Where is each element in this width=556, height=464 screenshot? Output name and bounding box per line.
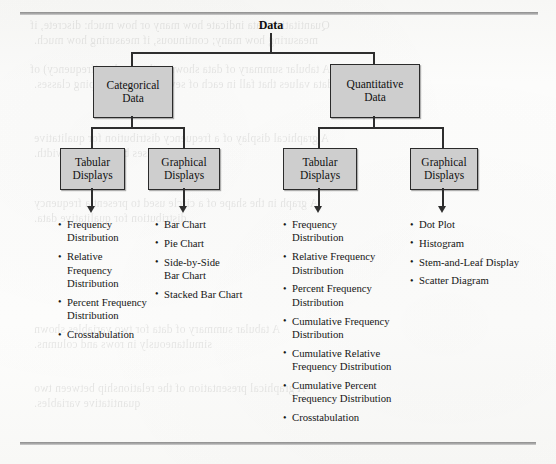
node-quantitative-data: Quantitative Data (330, 64, 420, 118)
bleed-text-line-3: A tabular summary of data showing the nu… (30, 62, 330, 78)
arrow-stem-quant-graphical (442, 188, 444, 208)
list-item: Cumulative Relative Frequency Distributi… (283, 347, 408, 374)
bleed-text-line-7: A graph in the shape of a circle used to… (34, 196, 318, 212)
arrow-stem-quant-tabular (318, 188, 320, 208)
node-categorical-tabular-displays-label: Tabular Displays (72, 156, 112, 183)
bleed-text-line-5: A graphical display of a frequency distr… (34, 131, 329, 147)
list-item: Scatter Diagram (410, 274, 540, 287)
bleed-text-line-2: measuring how many; continuous, if measu… (34, 33, 318, 49)
node-categorical-graphical-displays: Graphical Displays (148, 148, 220, 190)
top-divider-rule (20, 12, 538, 15)
categorical-graphical-list: Bar Chart Pie Chart Side-by-Side Bar Cha… (155, 218, 265, 307)
connector-to-cat-tabular (91, 127, 93, 148)
root-node-data: Data (236, 18, 306, 33)
list-item: Crosstabulation (283, 411, 408, 424)
list-item: Dot Plot (410, 218, 540, 231)
arrow-head-quant-tabular (314, 206, 322, 213)
quantitative-tabular-list: Frequency Distribution Relative Frequenc… (283, 218, 408, 430)
node-categorical-data-label: Categorical Data (106, 79, 159, 106)
connector-to-categorical (131, 52, 133, 66)
quantitative-graphical-list: Dot Plot Histogram Stem-and-Leaf Display… (410, 218, 540, 293)
list-item: Bar Chart (155, 218, 265, 231)
list-item: Percent Frequency Distribution (58, 296, 150, 323)
bleed-text-line-4: data values that fall in each of several… (34, 77, 333, 93)
arrow-head-cat-tabular (87, 206, 95, 213)
list-item: Crosstabulation (58, 328, 150, 341)
list-item: Cumulative Percent Frequency Distributio… (283, 379, 408, 406)
connector-root-stem (270, 33, 272, 53)
connector-quantitative-bar (318, 127, 443, 129)
bleed-text-line-12: quantitative variables. (34, 396, 140, 412)
node-quantitative-tabular-displays: Tabular Displays (283, 148, 357, 190)
figure-page: Quantitative data indicate how many or h… (0, 0, 556, 464)
list-item: Percent Frequency Distribution (283, 282, 408, 309)
arrow-head-cat-graphical (179, 206, 187, 213)
node-quantitative-graphical-displays-label: Graphical Displays (421, 156, 466, 183)
list-item: Relative Frequency Distribution (283, 250, 408, 277)
arrow-stem-cat-tabular (91, 188, 93, 208)
arrow-stem-cat-graphical (183, 188, 185, 208)
bleed-text-line-11: A graphical presentation of the relation… (34, 381, 305, 397)
list-item: Pie Chart (155, 237, 265, 250)
node-quantitative-data-label: Quantitative Data (347, 78, 404, 105)
categorical-tabular-list: Frequency Distribution Relative Frequenc… (58, 218, 150, 347)
node-quantitative-graphical-displays: Graphical Displays (410, 148, 478, 190)
list-item: Histogram (410, 237, 540, 250)
list-item: Side-by-Side Bar Chart (155, 256, 265, 283)
bottom-divider-rule (20, 442, 536, 445)
connector-to-quant-graphical (442, 127, 444, 148)
list-item: Frequency Distribution (58, 218, 150, 245)
node-categorical-tabular-displays: Tabular Displays (60, 148, 125, 190)
connector-root-bar (131, 52, 374, 54)
node-quantitative-tabular-displays-label: Tabular Displays (300, 156, 340, 183)
list-item: Cumulative Frequency Distribution (283, 315, 408, 342)
list-item: Stem-and-Leaf Display (410, 256, 540, 269)
list-item: Relative Frequency Distribution (58, 250, 150, 290)
arrow-head-quant-graphical (438, 206, 446, 213)
list-item: Frequency Distribution (283, 218, 408, 245)
node-categorical-graphical-displays-label: Graphical Displays (161, 156, 206, 183)
connector-categorical-bar (91, 127, 184, 129)
list-item: Stacked Bar Chart (155, 288, 265, 301)
connector-to-quant-tabular (318, 127, 320, 148)
connector-to-cat-graphical (183, 127, 185, 148)
node-categorical-data: Categorical Data (93, 66, 173, 118)
